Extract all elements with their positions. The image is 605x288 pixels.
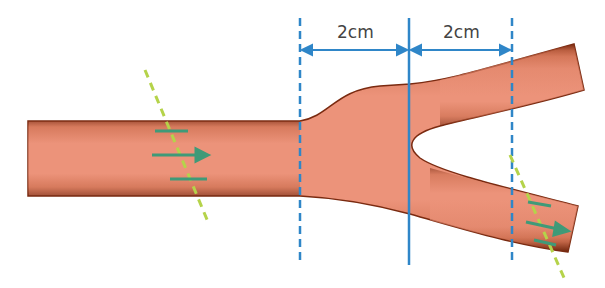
dimension-arrow-left (302, 45, 407, 55)
dimension-label-left: 2cm (337, 22, 374, 42)
diagram-canvas: 2cm 2cm (0, 0, 605, 288)
dimension-label-right: 2cm (443, 22, 480, 42)
vessel-diagram: 2cm 2cm (0, 0, 605, 288)
dimension-arrow-right (411, 45, 510, 55)
